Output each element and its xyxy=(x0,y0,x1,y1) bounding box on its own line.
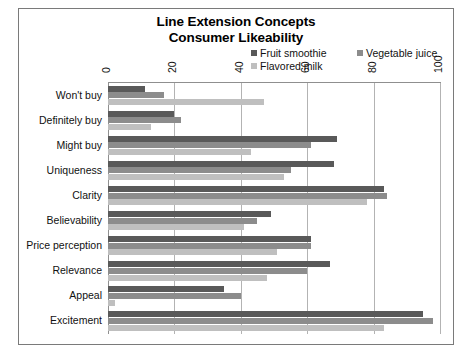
chart-frame: Line Extension Concepts Consumer Likeabi… xyxy=(18,8,454,345)
bar xyxy=(108,236,311,242)
category-label: Might buy xyxy=(56,140,102,151)
category-label: Appeal xyxy=(69,290,102,301)
bar xyxy=(108,268,307,274)
bar xyxy=(108,318,433,324)
x-tick-label: 60 xyxy=(299,61,311,73)
bar xyxy=(108,149,251,155)
bar xyxy=(108,325,384,331)
category-label: Definitely buy xyxy=(39,115,102,126)
bar xyxy=(108,275,267,281)
bar xyxy=(108,161,334,167)
bar xyxy=(108,142,311,148)
category-label: Uniqueness xyxy=(47,165,102,176)
bar-group: Clarity xyxy=(108,183,440,208)
bar xyxy=(108,86,145,92)
category-label: Excitement xyxy=(50,315,102,326)
bar xyxy=(108,193,387,199)
gridline xyxy=(440,83,441,334)
bar xyxy=(108,199,367,205)
bar-group: Definitely buy xyxy=(108,108,440,133)
plot-wrapper: 020406080100 Won't buyDefinitely buyMigh… xyxy=(19,9,455,346)
x-tick-label: 80 xyxy=(366,61,378,73)
bar xyxy=(108,117,181,123)
category-label: Believability xyxy=(47,215,102,226)
bar-group: Uniqueness xyxy=(108,158,440,183)
bar xyxy=(108,224,244,230)
bar-group: Excitement xyxy=(108,309,440,334)
bar xyxy=(108,293,241,299)
bar xyxy=(108,167,291,173)
category-label: Relevance xyxy=(52,265,102,276)
bar xyxy=(108,243,311,249)
x-tick-label: 100 xyxy=(432,55,444,73)
bar xyxy=(108,286,224,292)
x-tick-label: 0 xyxy=(100,67,112,73)
bar-group: Won't buy xyxy=(108,83,440,108)
bar xyxy=(108,92,164,98)
bar xyxy=(108,300,115,306)
category-label: Won't buy xyxy=(56,90,102,101)
bar xyxy=(108,99,264,105)
bar-group: Appeal xyxy=(108,284,440,309)
bar xyxy=(108,261,330,267)
bar-group: Might buy xyxy=(108,133,440,158)
category-label: Clarity xyxy=(72,190,102,201)
bar xyxy=(108,186,384,192)
category-label: Price perception xyxy=(26,240,102,251)
bar xyxy=(108,136,337,142)
bar-group: Believability xyxy=(108,209,440,234)
bar xyxy=(108,111,174,117)
bar-group: Relevance xyxy=(108,259,440,284)
bar-group: Price perception xyxy=(108,234,440,259)
bar xyxy=(108,211,271,217)
bar xyxy=(108,174,284,180)
x-tick-label: 20 xyxy=(166,61,178,73)
bar xyxy=(108,218,257,224)
x-tick-label: 40 xyxy=(233,61,245,73)
bar xyxy=(108,249,277,255)
plot-area: Won't buyDefinitely buyMight buyUniquene… xyxy=(108,83,440,334)
bar xyxy=(108,311,423,317)
bar xyxy=(108,124,151,130)
